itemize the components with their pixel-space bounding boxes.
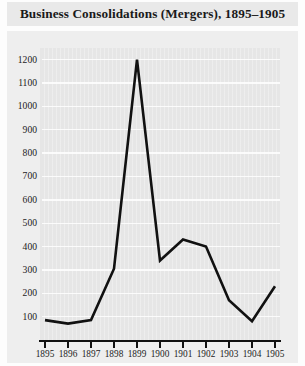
x-axis-label-1900: 1900 bbox=[151, 349, 170, 359]
x-axis-label-1902: 1902 bbox=[197, 349, 216, 359]
x-axis-label-1901: 1901 bbox=[174, 349, 193, 359]
x-tick-1901 bbox=[182, 342, 183, 348]
x-axis-label-1896: 1896 bbox=[59, 349, 78, 359]
y-axis-label-200: 200 bbox=[23, 288, 37, 298]
series-line bbox=[40, 48, 280, 340]
y-axis-label-700: 700 bbox=[23, 171, 37, 181]
x-tick-1898 bbox=[113, 342, 114, 348]
x-axis-label-1905: 1905 bbox=[266, 349, 285, 359]
y-axis-line bbox=[40, 48, 42, 340]
x-axis-label-1895: 1895 bbox=[36, 349, 55, 359]
x-tick-1903 bbox=[228, 342, 229, 348]
y-axis-label-400: 400 bbox=[23, 242, 37, 252]
x-axis-label-1899: 1899 bbox=[128, 349, 147, 359]
x-axis-label-1897: 1897 bbox=[82, 349, 101, 359]
y-axis-label-500: 500 bbox=[23, 218, 37, 228]
x-tick-1899 bbox=[136, 342, 137, 348]
y-axis-label-300: 300 bbox=[23, 265, 37, 275]
y-axis-label-600: 600 bbox=[23, 195, 37, 205]
y-axis-label-900: 900 bbox=[23, 125, 37, 135]
x-axis-label-1898: 1898 bbox=[105, 349, 124, 359]
chart-figure: Business Consolidations (Mergers), 1895–… bbox=[0, 0, 305, 366]
x-tick-1902 bbox=[205, 342, 206, 348]
page-title: Business Consolidations (Mergers), 1895–… bbox=[20, 6, 285, 22]
chart-panel: 100200300400500600700800900100011001200 … bbox=[7, 31, 298, 363]
x-tick-1896 bbox=[67, 342, 68, 348]
y-axis-label-100: 100 bbox=[23, 312, 37, 322]
y-axis-label-1100: 1100 bbox=[18, 78, 37, 88]
chart-title-bar: Business Consolidations (Mergers), 1895–… bbox=[7, 2, 298, 26]
y-axis-label-1200: 1200 bbox=[18, 55, 37, 65]
y-axis-label-800: 800 bbox=[23, 148, 37, 158]
x-tick-1897 bbox=[90, 342, 91, 348]
x-axis-label-1904: 1904 bbox=[243, 349, 262, 359]
x-tick-1905 bbox=[274, 342, 275, 348]
plot-area bbox=[40, 48, 280, 340]
x-tick-1904 bbox=[251, 342, 252, 348]
x-axis-label-1903: 1903 bbox=[220, 349, 239, 359]
x-tick-1895 bbox=[44, 342, 45, 348]
x-tick-1900 bbox=[159, 342, 160, 348]
y-axis-labels: 100200300400500600700800900100011001200 bbox=[7, 48, 37, 340]
y-axis-label-1000: 1000 bbox=[18, 101, 37, 111]
